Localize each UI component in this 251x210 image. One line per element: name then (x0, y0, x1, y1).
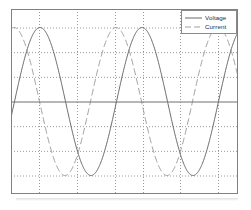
figure-drop-shadow (16, 198, 238, 201)
legend-line-sample-voltage (184, 14, 203, 22)
legend-label-current: Current (203, 23, 226, 31)
legend-line-sample-current (184, 23, 203, 31)
plot-area (11, 9, 238, 194)
waveform-figure: Voltage Current (0, 0, 251, 210)
legend-item-voltage: Voltage (184, 13, 234, 22)
chart-legend: Voltage Current (181, 10, 237, 34)
plot-canvas (11, 9, 238, 194)
legend-label-voltage: Voltage (203, 14, 226, 22)
legend-item-current: Current (184, 22, 234, 31)
